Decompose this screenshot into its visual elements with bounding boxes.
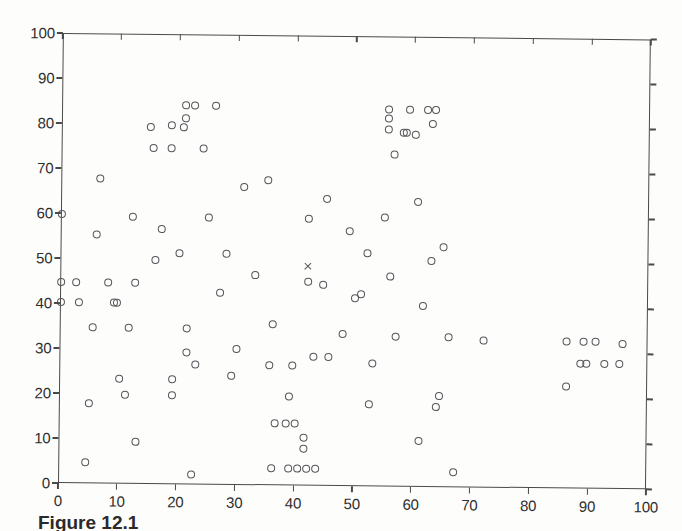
x-axis-tick-top bbox=[650, 39, 651, 45]
data-point-marker bbox=[128, 213, 136, 221]
data-point-marker bbox=[319, 280, 327, 288]
x-axis-tick bbox=[175, 484, 176, 490]
y-axis-tick bbox=[55, 212, 61, 213]
data-point-marker bbox=[216, 288, 224, 296]
y-axis-tick-label: 60 bbox=[9, 204, 53, 221]
data-point-marker bbox=[381, 213, 389, 221]
y-axis-tick bbox=[57, 32, 63, 33]
data-point-marker bbox=[89, 323, 97, 331]
data-point-marker bbox=[323, 195, 331, 203]
data-point-marker bbox=[299, 433, 307, 441]
data-point-marker bbox=[357, 290, 365, 298]
x-axis-tick-label: 50 bbox=[344, 495, 360, 512]
y-axis-tick-label: 80 bbox=[10, 114, 54, 131]
x-axis-tick-top bbox=[356, 36, 357, 42]
x-axis-tick-label: 20 bbox=[167, 493, 183, 510]
data-point-marker bbox=[385, 126, 393, 134]
y-axis-tick-label: 20 bbox=[7, 384, 51, 401]
data-point-marker bbox=[562, 382, 570, 390]
x-axis-tick-top bbox=[533, 38, 534, 44]
data-point-marker bbox=[187, 470, 195, 478]
data-point-marker bbox=[424, 106, 432, 114]
y-axis-tick-label: 70 bbox=[9, 159, 53, 176]
data-point-marker bbox=[385, 115, 393, 123]
figure-root: 0102030405060708090100010203040506070809… bbox=[0, 0, 682, 531]
data-point-marker bbox=[227, 372, 235, 380]
data-point-marker bbox=[183, 324, 191, 332]
figure-caption-strip: Figure 12.1 bbox=[0, 512, 682, 531]
data-point-marker bbox=[264, 176, 272, 184]
x-axis-tick-label: 70 bbox=[461, 496, 477, 513]
x-axis-tick-top bbox=[180, 34, 181, 40]
data-point-marker bbox=[445, 333, 453, 341]
data-point-marker bbox=[182, 115, 190, 123]
data-point-marker bbox=[205, 214, 213, 222]
x-axis-tick bbox=[234, 485, 235, 491]
data-point-marker bbox=[293, 465, 301, 473]
x-axis-tick bbox=[57, 483, 58, 489]
data-point-marker bbox=[200, 144, 208, 152]
y-axis-tick bbox=[56, 77, 62, 78]
data-point-marker bbox=[435, 392, 443, 400]
data-point-marker bbox=[93, 231, 101, 239]
x-axis-tick-label: 10 bbox=[108, 493, 124, 510]
x-axis-tick-top bbox=[62, 33, 63, 39]
data-point-marker bbox=[480, 336, 488, 344]
data-point-marker bbox=[270, 419, 278, 427]
y-axis-tick bbox=[54, 302, 60, 303]
y-axis-tick-label: 0 bbox=[6, 474, 50, 491]
data-point-marker bbox=[406, 106, 414, 114]
data-point-marker bbox=[167, 144, 175, 152]
data-point-marker bbox=[592, 337, 600, 345]
data-point-marker bbox=[124, 323, 132, 331]
y-axis-tick-right bbox=[649, 174, 655, 175]
y-axis-tick-right bbox=[646, 489, 652, 490]
data-point-marker bbox=[85, 399, 93, 407]
y-axis-tick-label: 50 bbox=[8, 249, 52, 266]
data-point-marker bbox=[346, 227, 354, 235]
data-point-marker bbox=[414, 198, 422, 206]
x-axis-tick-top bbox=[415, 37, 416, 43]
x-axis-tick-top bbox=[474, 37, 475, 43]
y-axis-tick bbox=[52, 437, 58, 438]
x-axis-tick bbox=[469, 487, 470, 493]
x-axis-tick-label: 40 bbox=[285, 494, 301, 511]
data-point-marker bbox=[288, 361, 296, 369]
data-point-marker bbox=[284, 464, 292, 472]
y-axis-tick bbox=[56, 122, 62, 123]
x-axis-tick-top bbox=[591, 39, 592, 45]
data-point-marker bbox=[432, 403, 440, 411]
data-point-marker bbox=[82, 458, 90, 466]
data-point-marker bbox=[212, 101, 220, 109]
data-point-marker bbox=[267, 464, 275, 472]
data-point-marker bbox=[233, 345, 241, 353]
data-point-marker bbox=[240, 183, 248, 191]
data-point-marker bbox=[121, 391, 129, 399]
axis-ticks-layer bbox=[5, 0, 682, 7]
data-point-marker bbox=[150, 143, 158, 151]
data-point-marker bbox=[440, 243, 448, 251]
data-point-marker bbox=[392, 333, 400, 341]
centroid-marker bbox=[304, 262, 313, 271]
y-axis-tick-right bbox=[649, 219, 655, 220]
x-axis-tick-label: 30 bbox=[226, 494, 242, 511]
y-axis-tick-right bbox=[648, 264, 654, 265]
data-point-marker bbox=[562, 337, 570, 345]
data-point-marker bbox=[600, 360, 608, 368]
data-point-marker bbox=[179, 124, 187, 132]
data-point-marker bbox=[412, 131, 420, 139]
data-point-marker bbox=[191, 101, 199, 109]
data-point-marker bbox=[113, 298, 121, 306]
data-point-marker bbox=[58, 210, 66, 218]
data-point-marker bbox=[583, 360, 591, 368]
data-point-marker bbox=[168, 121, 176, 129]
y-axis-tick bbox=[54, 257, 60, 258]
data-point-marker bbox=[183, 101, 191, 109]
data-point-marker bbox=[339, 330, 347, 338]
data-point-marker bbox=[324, 352, 332, 360]
data-point-marker bbox=[115, 375, 123, 383]
x-axis-tick-label: 60 bbox=[402, 496, 418, 513]
data-point-marker bbox=[251, 271, 259, 279]
data-point-marker bbox=[419, 302, 427, 310]
data-point-marker bbox=[222, 250, 230, 258]
